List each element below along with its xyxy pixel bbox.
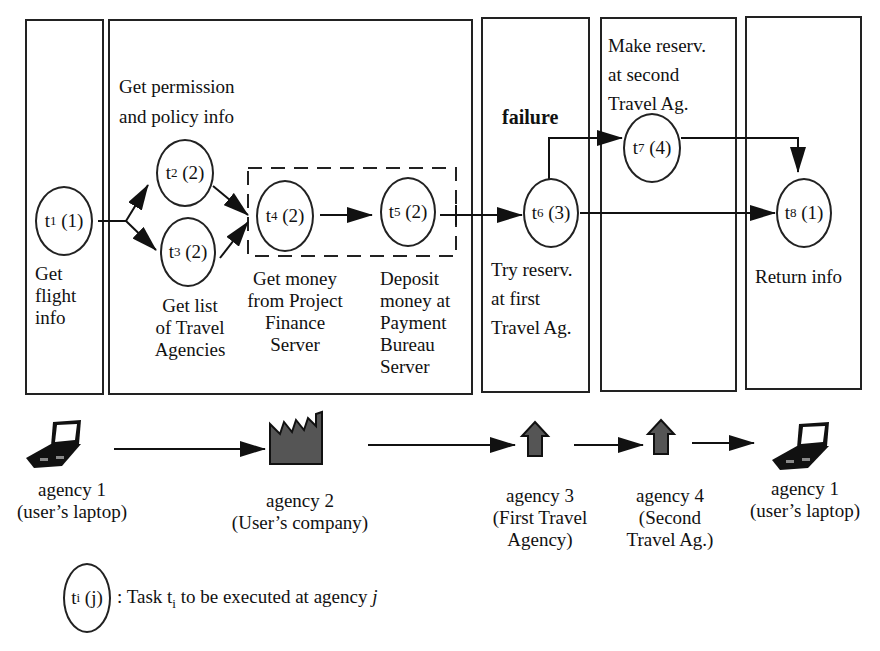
agency-1-label: agency 1(user’s laptop) (2, 479, 142, 523)
label-t2: Get permissionand policy info (119, 72, 235, 132)
house-icon (522, 422, 548, 456)
house-icon (648, 420, 674, 454)
task-node-t7: t7 (4) (623, 113, 681, 183)
label-t8: Return info (755, 266, 842, 288)
agency-3-label: agency 3(First TravelAgency) (470, 485, 610, 551)
label-t7: Make reserv.at secondTravel Ag. (608, 31, 706, 118)
task-node-t3: t3 (2) (160, 217, 216, 287)
task-node-t5: t5 (2) (380, 177, 436, 247)
task-node-t4: t4 (2) (256, 180, 314, 252)
agency-1-return-label: agency 1(user’s laptop) (735, 478, 875, 522)
agency-4-label: agency 4(SecondTravel Ag.) (610, 485, 730, 551)
agency-2-label: agency 2(User’s company) (220, 490, 380, 534)
laptop-icon (26, 420, 81, 468)
failure-label: failure (502, 106, 558, 128)
label-t4: Get moneyfrom ProjectFinanceServer (240, 268, 350, 356)
label-t6: Try reserv.at firstTravel Ag. (491, 255, 572, 342)
legend-node: ti (j) (63, 563, 111, 633)
label-t3: Get listof TravelAgencies (140, 295, 240, 361)
label-t5: Depositmoney atPaymentBureauServer (380, 268, 450, 378)
task-node-t6: t6 (3) (523, 178, 579, 248)
label-t1: Getflightinfo (35, 263, 76, 329)
laptop-icon (772, 422, 829, 470)
task-node-t8: t8 (1) (776, 178, 832, 248)
legend-text: : Task ti to be executed at agency j (117, 586, 377, 615)
task-node-t2: t2 (2) (156, 139, 214, 207)
factory-icon (270, 412, 322, 464)
task-node-t1: t1 (1) (35, 186, 93, 256)
